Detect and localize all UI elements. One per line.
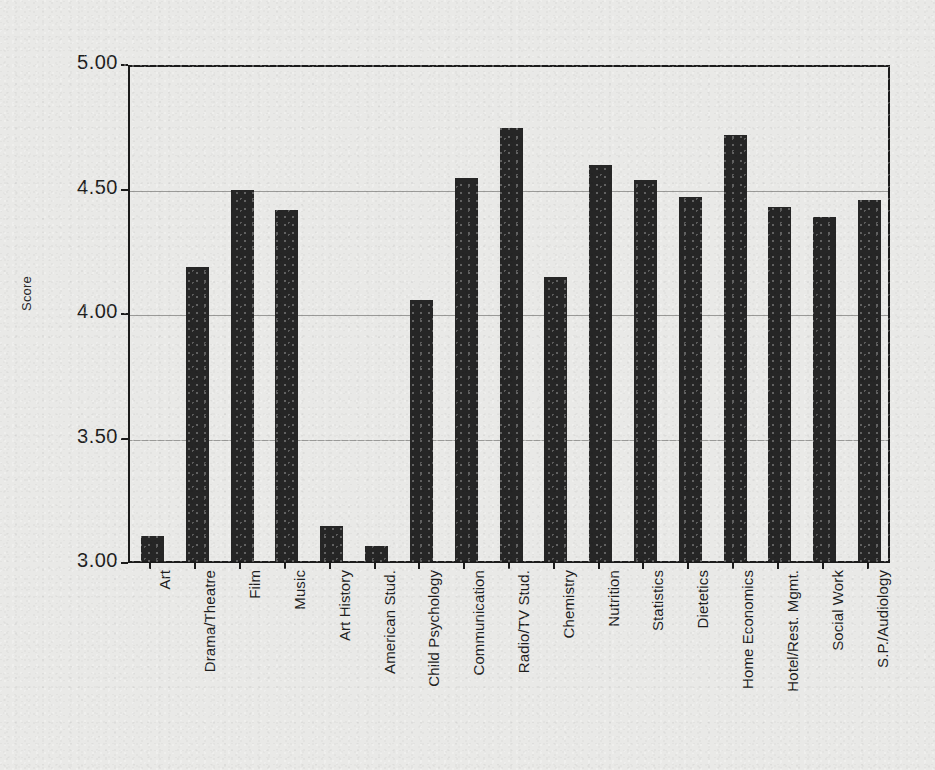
- x-tick-mark: [374, 563, 376, 569]
- bar-chart-figure: Score 5.004.504.003.503.00 ArtDrama/Thea…: [0, 0, 935, 770]
- x-tick-label: Home Economics: [739, 570, 756, 689]
- x-tick-label: Drama/Theatre: [201, 570, 218, 672]
- x-tick-mark: [732, 563, 734, 569]
- x-tick-label: Chemistry: [560, 570, 577, 638]
- x-tick-mark: [822, 563, 824, 569]
- x-axis-ticks: ArtDrama/TheatreFilmMusicArt HistoryAmer…: [0, 0, 935, 770]
- x-tick-mark: [329, 563, 331, 569]
- x-tick-mark: [687, 563, 689, 569]
- x-tick-mark: [149, 563, 151, 569]
- x-tick-label: Social Work: [829, 570, 846, 651]
- x-tick-label: Art History: [336, 570, 353, 641]
- x-tick-mark: [553, 563, 555, 569]
- x-tick-label: Child Psychology: [425, 570, 442, 687]
- x-tick-label: Radio/TV Stud.: [515, 570, 532, 673]
- x-tick-label: Film: [246, 570, 263, 599]
- x-tick-mark: [239, 563, 241, 569]
- x-tick-mark: [777, 563, 779, 569]
- x-tick-label: Dietetics: [694, 570, 711, 628]
- x-tick-mark: [463, 563, 465, 569]
- x-tick-mark: [418, 563, 420, 569]
- x-tick-label: Music: [291, 570, 308, 610]
- x-tick-mark: [194, 563, 196, 569]
- x-tick-mark: [508, 563, 510, 569]
- x-tick-label: Communication: [470, 570, 487, 676]
- x-tick-mark: [284, 563, 286, 569]
- x-tick-mark: [642, 563, 644, 569]
- x-tick-label: Hotel/Rest. Mgmt.: [784, 570, 801, 692]
- x-tick-label: Statistics: [649, 570, 666, 631]
- x-tick-label: S.P./Audiology: [874, 570, 891, 668]
- x-tick-mark: [867, 563, 869, 569]
- x-tick-label: American Stud.: [381, 570, 398, 674]
- x-tick-label: Nutrition: [605, 570, 622, 627]
- x-tick-mark: [598, 563, 600, 569]
- x-tick-label: Art: [156, 570, 173, 589]
